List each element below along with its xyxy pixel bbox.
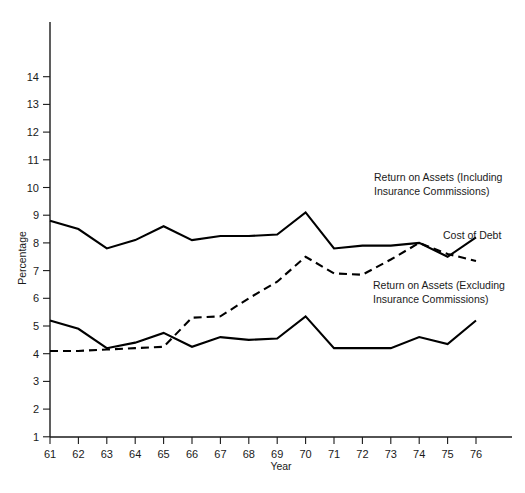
y-tick-label: 14 <box>27 71 39 83</box>
series-label-cost-of-debt: Cost of Debt <box>443 229 501 241</box>
series-line-3 <box>50 316 476 348</box>
y-axis-ticks: 1234567891011121314 <box>27 71 50 443</box>
y-tick-label: 2 <box>33 403 39 415</box>
y-tick-label: 9 <box>33 209 39 221</box>
x-tick-label: 72 <box>356 448 368 460</box>
x-tick-label: 64 <box>129 448 141 460</box>
series-line-1 <box>50 212 476 256</box>
x-tick-label: 74 <box>413 448 425 460</box>
x-tick-label: 69 <box>271 448 283 460</box>
series-label-return-on-assets-excluding: Return on Assets (ExcludingInsurance Com… <box>373 279 505 305</box>
x-tick-label: 76 <box>470 448 482 460</box>
series-label-return-on-assets-including: Return on Assets (IncludingInsurance Com… <box>374 171 503 197</box>
y-tick-label: 10 <box>27 182 39 194</box>
annotation-group: Return on Assets (IncludingInsurance Com… <box>373 171 505 305</box>
y-tick-label: 8 <box>33 237 39 249</box>
x-tick-label: 62 <box>72 448 84 460</box>
x-tick-label: 73 <box>385 448 397 460</box>
y-tick-label: 12 <box>27 126 39 138</box>
y-tick-label: 11 <box>28 154 39 166</box>
y-tick-label: 5 <box>33 320 39 332</box>
x-tick-label: 68 <box>243 448 255 460</box>
x-tick-label: 70 <box>299 448 311 460</box>
x-tick-label: 65 <box>157 448 169 460</box>
chart-container: 1234567891011121314 61626364656667686970… <box>0 0 525 493</box>
y-tick-label: 6 <box>33 292 39 304</box>
y-tick-label: 13 <box>27 98 39 110</box>
line-chart: 1234567891011121314 61626364656667686970… <box>0 0 525 493</box>
x-tick-label: 63 <box>101 448 113 460</box>
y-tick-label: 4 <box>33 348 39 360</box>
x-tick-label: 67 <box>214 448 226 460</box>
y-tick-label: 1 <box>33 431 39 443</box>
x-axis-title: Year <box>270 460 292 472</box>
y-tick-label: 3 <box>33 375 39 387</box>
x-axis-ticks: 61626364656667686970717273747576 <box>44 437 482 460</box>
x-tick-label: 75 <box>441 448 453 460</box>
x-tick-label: 66 <box>186 448 198 460</box>
y-tick-label: 7 <box>33 265 39 277</box>
x-tick-label: 61 <box>44 448 56 460</box>
x-tick-label: 71 <box>328 448 340 460</box>
y-axis-title: Percentage <box>16 231 28 285</box>
